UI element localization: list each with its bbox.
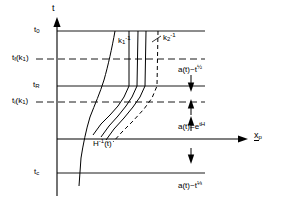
tick-label-tf-k1: tf(k1)	[12, 54, 29, 62]
tick-label-tR: tR	[33, 81, 40, 89]
hubble-radius-curve	[79, 31, 115, 186]
xp-axis-label: xp	[254, 131, 262, 141]
tick-label-tc: tc	[34, 168, 39, 176]
tick-label-t0: t0	[34, 26, 40, 34]
epoch-arrow-down-bottom	[188, 148, 194, 164]
curve-label-k1-inverse: k1-1	[118, 35, 131, 45]
comoving-scale-line-k2	[113, 31, 158, 142]
time-axis	[53, 17, 60, 196]
curve-label-hubble-radius: H-1(t)	[93, 138, 112, 148]
xp-axis	[57, 135, 248, 142]
time-axis-label: t	[52, 4, 55, 13]
comoving-scale-line-inner	[93, 31, 129, 135]
k2-leader-line	[152, 36, 161, 42]
tick-label-ti-k1: ti(k1)	[12, 97, 28, 105]
epoch-label-matter-lower: a(t)~t⅓	[178, 180, 202, 190]
figure-canvas: t xp t0 tf(k1) tR ti(k1) tc k1-1 k2-1 H-…	[0, 0, 288, 203]
epoch-label-radiation-upper: a(t)~t½	[178, 64, 202, 74]
curve-label-k2-inverse: k2-1	[163, 32, 176, 42]
diagram-graphics	[0, 0, 288, 203]
epoch-label-inflation: a(t)=etH	[178, 121, 205, 131]
epoch-arrow-up-lower	[188, 99, 194, 115]
epoch-arrow-down-upper	[188, 75, 194, 92]
